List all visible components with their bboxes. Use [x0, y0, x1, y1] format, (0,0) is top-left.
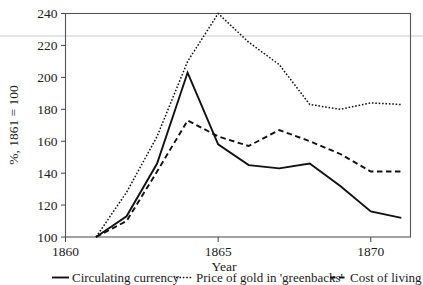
y-axis-title: %, 1861 = 100 [6, 85, 21, 165]
series-line-solid [96, 73, 401, 237]
x-tick-label: 1860 [52, 244, 79, 259]
plot-frame [66, 14, 411, 238]
x-axis-ticks: 186018651870 [52, 237, 385, 259]
y-tick-label: 160 [37, 134, 58, 149]
y-tick-label: 240 [37, 6, 58, 21]
legend-label: Circulating currency [72, 270, 180, 285]
y-tick-label: 200 [37, 70, 58, 85]
series-line-dashed [96, 120, 401, 237]
series-group [96, 14, 401, 238]
y-tick-label: 220 [37, 38, 58, 53]
y-tick-label: 140 [37, 166, 58, 181]
x-tick-label: 1870 [357, 244, 384, 259]
chart-container: 100120140160180200220240 186018651870 %,… [0, 0, 423, 285]
y-tick-label: 180 [37, 102, 58, 117]
series-line-dotted [96, 14, 401, 238]
chart-legend: Circulating currencyPrice of gold in 'gr… [52, 270, 422, 285]
legend-label: Price of gold in 'greenbacks' [196, 270, 343, 285]
line-chart: 100120140160180200220240 186018651870 %,… [0, 0, 423, 285]
y-tick-label: 120 [37, 198, 58, 213]
y-axis-ticks: 100120140160180200220240 [37, 6, 65, 245]
x-tick-label: 1865 [205, 244, 232, 259]
legend-label: Cost of living [350, 270, 422, 285]
